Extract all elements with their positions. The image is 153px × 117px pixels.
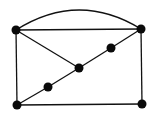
node-m1 bbox=[107, 44, 116, 53]
graph-diagram bbox=[0, 0, 153, 117]
edge bbox=[17, 104, 142, 105]
node-m2 bbox=[44, 83, 53, 92]
edge bbox=[141, 29, 142, 104]
edge bbox=[16, 29, 141, 30]
node-br bbox=[138, 100, 147, 109]
node-bl bbox=[13, 101, 22, 110]
arc-edge bbox=[16, 10, 141, 30]
edge bbox=[79, 48, 111, 68]
edge bbox=[16, 30, 79, 68]
node-tl bbox=[12, 26, 21, 35]
edge bbox=[111, 29, 141, 48]
edge bbox=[17, 87, 48, 105]
edge bbox=[48, 68, 79, 87]
edges bbox=[16, 10, 142, 105]
edge bbox=[16, 30, 17, 105]
node-tr bbox=[137, 25, 146, 34]
node-c bbox=[75, 64, 84, 73]
